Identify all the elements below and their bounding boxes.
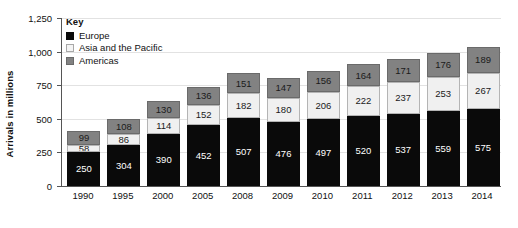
x-tick-label: 2012 (382, 190, 422, 201)
bar-segment-americas[interactable]: 136 (187, 87, 220, 105)
bar-stack[interactable]: 151182507 (227, 73, 260, 186)
bar-segment-americas[interactable]: 164 (347, 64, 380, 86)
bar-stack[interactable]: 130114390 (147, 101, 180, 186)
x-tick-label: 2010 (302, 190, 342, 201)
stacked-bar-chart: Arrivals in millions 9958250108863041301… (0, 0, 518, 228)
bar-segment-europe[interactable]: 537 (387, 114, 420, 186)
x-tick-label: 1995 (103, 190, 143, 201)
legend-label-asia: Asia and the Pacific (79, 42, 162, 55)
bar-segment-asia[interactable]: 253 (427, 77, 460, 111)
legend-item-americas: Americas (66, 55, 162, 68)
bar-stack[interactable]: 10886304 (107, 119, 140, 186)
bar-segment-asia[interactable]: 267 (467, 73, 500, 109)
y-tick-label: 500 (0, 113, 52, 124)
bar-segment-asia[interactable]: 152 (187, 105, 220, 125)
bar-segment-americas[interactable]: 147 (267, 78, 300, 98)
bar-segment-europe[interactable]: 304 (107, 145, 140, 186)
y-tick-label: 1,000 (0, 46, 52, 57)
bar-stack[interactable]: 176253559 (427, 53, 460, 186)
bar-segment-asia[interactable]: 86 (107, 134, 140, 146)
bar-segment-europe[interactable]: 507 (227, 118, 260, 186)
bar-segment-asia[interactable]: 180 (267, 98, 300, 122)
bar-segment-asia[interactable]: 237 (387, 82, 420, 114)
bar-stack[interactable]: 171237537 (387, 59, 420, 186)
bar-segment-americas[interactable]: 171 (387, 59, 420, 82)
bar-segment-asia[interactable]: 182 (227, 93, 260, 117)
legend-swatch-icon-asia (66, 44, 74, 52)
x-axis-line (61, 186, 501, 187)
bar-segment-europe[interactable]: 250 (67, 152, 100, 186)
bar-segment-europe[interactable]: 390 (147, 134, 180, 186)
legend-item-asia-and-the-pacific: Asia and the Pacific (66, 42, 162, 55)
bar-segment-americas[interactable]: 189 (467, 47, 500, 72)
bar-segment-americas[interactable]: 176 (427, 53, 460, 77)
bar-segment-asia[interactable]: 222 (347, 86, 380, 116)
bar-stack[interactable]: 147180476 (267, 78, 300, 186)
x-tick-label: 2008 (223, 190, 263, 201)
x-tick-label: 1990 (63, 190, 103, 201)
bar-stack[interactable]: 189267575 (467, 47, 500, 186)
x-tick-label: 2009 (263, 190, 303, 201)
bar-segment-asia[interactable]: 114 (147, 118, 180, 133)
legend-label-americas: Americas (79, 55, 119, 68)
bar-stack[interactable]: 9958250 (67, 131, 100, 186)
legend-label-europe: Europe (79, 30, 110, 43)
legend-title: Key (66, 16, 162, 29)
x-tick-label: 2005 (183, 190, 223, 201)
bar-segment-americas[interactable]: 108 (107, 119, 140, 134)
bar-segment-americas[interactable]: 151 (227, 73, 260, 93)
legend: Key Europe Asia and the Pacific Americas (66, 16, 162, 67)
bar-stack[interactable]: 164222520 (347, 64, 380, 186)
bar-segment-europe[interactable]: 497 (307, 119, 340, 186)
bar-segment-europe[interactable]: 476 (267, 122, 300, 186)
bar-segment-europe[interactable]: 452 (187, 125, 220, 186)
bar-segment-americas[interactable]: 130 (147, 101, 180, 118)
y-tick-label: 250 (0, 147, 52, 158)
bar-segment-americas[interactable]: 99 (67, 131, 100, 144)
y-tick-label: 750 (0, 80, 52, 91)
x-tick-label: 2011 (342, 190, 382, 201)
legend-swatch-icon-americas (66, 57, 74, 65)
y-tick-label: 0 (0, 181, 52, 192)
bar-segment-europe[interactable]: 575 (467, 109, 500, 186)
x-tick-label: 2014 (462, 190, 502, 201)
legend-item-europe: Europe (66, 30, 162, 43)
bar-stack[interactable]: 136152452 (187, 87, 220, 186)
bar-segment-asia[interactable]: 58 (67, 145, 100, 153)
y-tick-label: 1,250 (0, 13, 52, 24)
bar-segment-americas[interactable]: 156 (307, 71, 340, 92)
bar-segment-europe[interactable]: 520 (347, 116, 380, 186)
bar-segment-asia[interactable]: 206 (307, 92, 340, 120)
bar-stack[interactable]: 156206497 (307, 71, 340, 186)
x-tick-label: 2013 (422, 190, 462, 201)
legend-swatch-icon-europe (66, 32, 74, 40)
bar-segment-europe[interactable]: 559 (427, 111, 460, 186)
x-tick-label: 2000 (143, 190, 183, 201)
